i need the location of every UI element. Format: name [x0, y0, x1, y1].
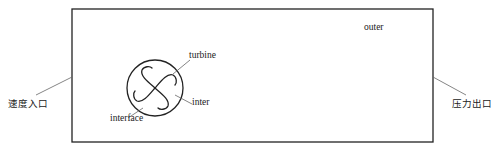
turbine-blades-icon — [134, 67, 177, 110]
pressure-outlet-label: 压力出口 — [452, 96, 492, 110]
leader-lines — [36, 60, 466, 118]
turbine-label: turbine — [189, 50, 216, 60]
velocity-inlet-label: 速度入口 — [8, 96, 48, 110]
interface-label: interface — [110, 113, 143, 123]
outer-label: outer — [364, 22, 384, 32]
inter-label: inter — [192, 97, 209, 107]
diagram-canvas — [0, 0, 499, 153]
